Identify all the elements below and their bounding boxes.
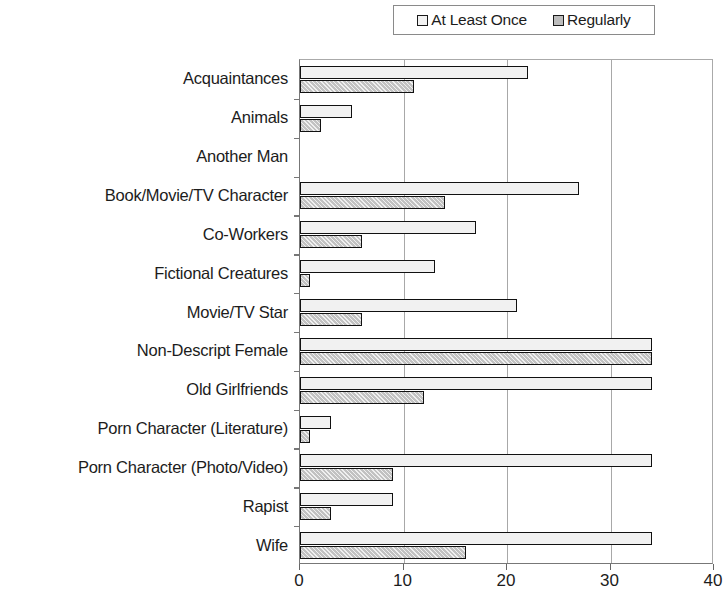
legend-swatch-regularly (553, 15, 564, 26)
bar-at-least-once (300, 221, 476, 234)
category-tick (294, 177, 300, 178)
bar-group (300, 526, 712, 565)
x-axis-label: 0 (294, 572, 303, 589)
y-axis-label: Porn Character (Literature) (98, 420, 288, 437)
bar-at-least-once (300, 493, 393, 506)
legend-entry-at-least-once: At Least Once (417, 12, 527, 28)
bar-group (300, 293, 712, 332)
bar-at-least-once (300, 338, 652, 351)
legend-label-regularly: Regularly (567, 12, 631, 28)
category-tick (294, 138, 300, 139)
bar-regularly (300, 391, 424, 404)
bar-chart: At Least Once Regularly AcquaintancesAni… (0, 0, 724, 607)
bar-regularly (300, 507, 331, 520)
category-tick (294, 99, 300, 100)
y-axis-label: Fictional Creatures (154, 265, 288, 282)
category-tick (294, 410, 300, 411)
y-axis-label: Movie/TV Star (187, 304, 288, 321)
y-axis-labels: AcquaintancesAnimalsAnother ManBook/Movi… (0, 59, 294, 564)
legend-swatch-at-least-once (417, 15, 428, 26)
bar-rows (300, 60, 712, 563)
x-axis-labels: 010203040 (0, 572, 724, 600)
bar-group (300, 332, 712, 371)
bar-regularly (300, 313, 362, 326)
bar-at-least-once (300, 105, 352, 118)
bar-group (300, 215, 712, 254)
bar-group (300, 448, 712, 487)
category-tick (294, 332, 300, 333)
bar-at-least-once (300, 182, 579, 195)
bar-at-least-once (300, 377, 652, 390)
category-tick (294, 293, 300, 294)
bar-regularly (300, 430, 310, 443)
bar-at-least-once (300, 299, 517, 312)
y-axis-label: Non-Descript Female (137, 342, 288, 359)
bar-group (300, 99, 712, 138)
plot-area (299, 59, 713, 564)
category-tick (294, 487, 300, 488)
x-axis-tick (610, 564, 611, 570)
x-axis-label: 30 (600, 572, 619, 589)
x-axis-tick (713, 564, 714, 570)
x-axis-label: 10 (393, 572, 412, 589)
y-axis-label: Book/Movie/TV Character (105, 187, 288, 204)
category-tick (294, 448, 300, 449)
category-tick (294, 254, 300, 255)
bar-at-least-once (300, 66, 528, 79)
legend-label-at-least-once: At Least Once (431, 12, 527, 28)
bar-group (300, 60, 712, 99)
x-axis-tick (506, 564, 507, 570)
bar-regularly (300, 235, 362, 248)
category-tick (294, 526, 300, 527)
bar-group (300, 487, 712, 526)
bar-group (300, 410, 712, 449)
category-tick (294, 215, 300, 216)
x-axis-label: 20 (497, 572, 516, 589)
y-axis-label: Old Girlfriends (186, 381, 288, 398)
y-axis-label: Another Man (196, 148, 288, 165)
bar-regularly (300, 80, 414, 93)
bar-at-least-once (300, 454, 652, 467)
bar-at-least-once (300, 260, 435, 273)
y-axis-label: Acquaintances (183, 70, 288, 87)
bar-regularly (300, 274, 310, 287)
y-axis-label: Co-Workers (203, 226, 288, 243)
bar-regularly (300, 196, 445, 209)
bar-at-least-once (300, 532, 652, 545)
x-axis-tick (403, 564, 404, 570)
chart-legend: At Least Once Regularly (393, 5, 655, 35)
bar-group (300, 177, 712, 216)
bar-at-least-once (300, 416, 331, 429)
bar-regularly (300, 546, 466, 559)
bar-group (300, 371, 712, 410)
x-axis-label: 40 (704, 572, 723, 589)
y-axis-label: Animals (231, 109, 288, 126)
y-axis-label: Porn Character (Photo/Video) (78, 459, 288, 476)
bar-regularly (300, 468, 393, 481)
y-axis-label: Wife (256, 537, 288, 554)
bar-regularly (300, 119, 321, 132)
x-axis-tick (299, 564, 300, 570)
bar-group (300, 138, 712, 177)
legend-entry-regularly: Regularly (553, 12, 631, 28)
category-tick (294, 371, 300, 372)
bar-group (300, 254, 712, 293)
y-axis-label: Rapist (243, 498, 288, 515)
bar-regularly (300, 352, 652, 365)
